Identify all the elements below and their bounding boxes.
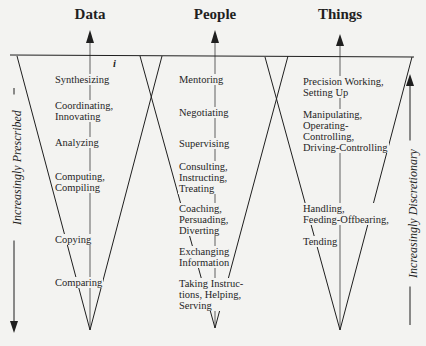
things-function: Tending (302, 236, 338, 247)
people-function: Taking Instruc- tions, Helping, Serving (178, 278, 244, 311)
axis-label-discretionary: Increasingly Discretionary (406, 141, 421, 287)
data-function: Computing, Compiling (54, 171, 106, 193)
data-function: Coordinating, Innovating (54, 100, 114, 122)
things-function: Manipulating, Operating- Controlling, Dr… (302, 109, 389, 153)
people-function: Mentoring (178, 74, 224, 85)
people-function: Coaching, Persuading, Diverting (178, 203, 229, 236)
header-data: Data (40, 6, 140, 23)
people-arrowhead (211, 30, 219, 43)
people-function: Negotiating (178, 107, 230, 118)
data-function: Copying (54, 234, 92, 245)
header-people: People (165, 6, 265, 23)
people-function: Consulting, Instructing, Treating (178, 161, 229, 194)
data-function: Synthesizing (54, 74, 110, 85)
things-arrowhead (336, 34, 344, 46)
things-function: Precision Working, Setting Up (302, 76, 385, 98)
data-function: Comparing (54, 277, 103, 288)
prescribed-arrowhead (10, 321, 18, 333)
header-things: Things (290, 6, 390, 23)
top-baseline (10, 55, 414, 57)
people-function: Exchanging Information (178, 246, 230, 268)
label-synthesizing: Synthesizing (55, 74, 109, 85)
annotation-mark: i (112, 58, 117, 69)
data-function: Analyzing (54, 137, 100, 148)
things-function: Handling, Feeding-Offbearing, (302, 203, 390, 225)
axis-label-prescribed: Increasingly Prescribed (10, 95, 25, 241)
data-triangle-left (17, 56, 90, 330)
data-arrowhead (86, 30, 94, 43)
people-function: Supervising (178, 138, 230, 149)
